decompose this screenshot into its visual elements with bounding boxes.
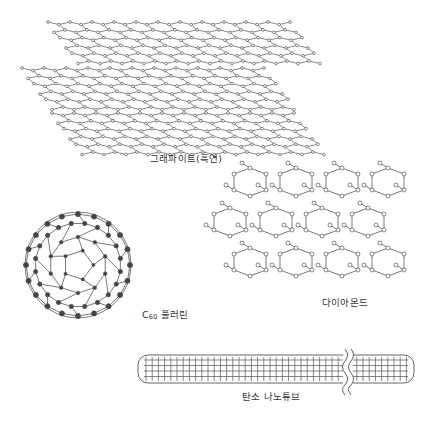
graphite-structure — [21, 21, 326, 156]
nanotube-label: 탄소 나노튜브 — [242, 389, 300, 403]
fullerene-label-prefix: C — [142, 309, 149, 320]
diamond-label: 다이아몬드 — [322, 295, 368, 309]
fullerene-label-subscript: 60 — [149, 313, 158, 321]
carbon-allotropes-diagram — [0, 0, 434, 425]
diamond-structure — [204, 161, 406, 278]
fullerene-label-suffix: 풀러린 — [158, 309, 189, 320]
graphite-label: 그래파이트(흑연) — [150, 151, 222, 165]
fullerene-label: C60 풀러린 — [142, 307, 188, 321]
fullerene-structure — [23, 211, 132, 318]
